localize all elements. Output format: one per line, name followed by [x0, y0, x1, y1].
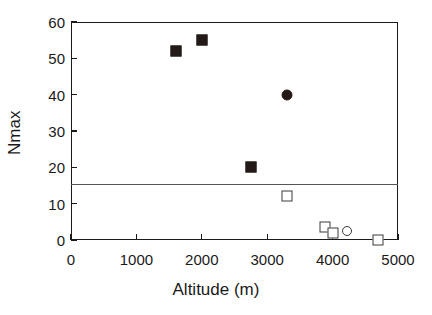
x-axis-title: Altitude (m): [0, 280, 432, 299]
data-point-filled-circle: [281, 89, 292, 100]
y-tick-label: 20: [27, 160, 65, 175]
x-tick: [267, 234, 268, 240]
y-tick-label: 60: [27, 15, 65, 30]
x-tick-label: 4000: [316, 252, 349, 267]
scatter-chart-figure: 010002000300040005000 0102030405060 Alti…: [0, 0, 432, 315]
data-point-open-circle: [342, 226, 352, 236]
x-tick: [397, 234, 398, 240]
x-tick-label: 3000: [251, 252, 284, 267]
plot-area: [71, 22, 398, 240]
x-tick-label: 2000: [185, 252, 218, 267]
threshold-reference-line: [71, 184, 398, 185]
data-point-open-square: [328, 227, 339, 238]
y-tick: [71, 58, 77, 59]
y-tick: [71, 167, 77, 168]
y-tick: [71, 239, 77, 240]
y-tick-label: 0: [27, 233, 65, 248]
data-point-open-square: [373, 235, 384, 246]
x-tick: [136, 234, 137, 240]
y-tick-label: 40: [27, 87, 65, 102]
y-tick-label: 10: [27, 196, 65, 211]
x-tick-label: 5000: [381, 252, 414, 267]
data-point-filled-square: [170, 46, 181, 57]
y-tick-label: 50: [27, 51, 65, 66]
y-tick: [71, 203, 77, 204]
data-point-open-square: [281, 191, 292, 202]
x-tick-label: 0: [67, 252, 75, 267]
data-point-filled-square: [245, 162, 256, 173]
y-axis-title: Nmax: [2, 88, 28, 178]
y-tick: [71, 94, 77, 95]
x-tick: [201, 234, 202, 240]
y-tick: [71, 130, 77, 131]
y-tick: [71, 21, 77, 22]
data-point-filled-square: [196, 35, 207, 46]
x-tick-label: 1000: [120, 252, 153, 267]
y-tick-label: 30: [27, 124, 65, 139]
